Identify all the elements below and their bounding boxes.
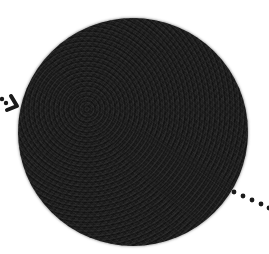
- path-overlay: [0, 0, 269, 254]
- diagram-canvas: [0, 0, 269, 254]
- incoming-arrow-icon: [0, 96, 17, 110]
- outgoing-dotted-line: [232, 190, 269, 211]
